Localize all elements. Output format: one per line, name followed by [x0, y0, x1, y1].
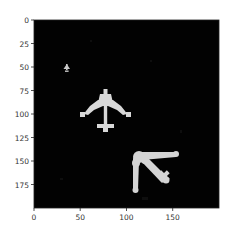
image-plot-figure: 0 25 50 75 100 125 150 175 0 50 100 150: [0, 0, 228, 236]
x-tick-label: 100: [119, 213, 134, 222]
y-tick-labels: 0 25 50 75 100 125 150 175: [15, 16, 30, 190]
y-tick-label: 125: [15, 134, 30, 143]
x-tick-label: 0: [32, 213, 37, 222]
y-tick-label: 100: [15, 110, 30, 119]
x-tick-label: 50: [75, 213, 85, 222]
y-tick-label: 175: [15, 181, 30, 190]
y-tick-label: 50: [19, 63, 29, 72]
y-axis: [31, 20, 34, 185]
x-axis: [34, 208, 173, 211]
x-tick-label: 150: [166, 213, 181, 222]
y-tick-label: 0: [24, 16, 29, 25]
y-tick-label: 25: [19, 40, 29, 49]
y-tick-label: 75: [19, 87, 29, 96]
y-tick-label: 150: [15, 157, 30, 166]
x-tick-labels: 0 50 100 150: [32, 213, 180, 222]
